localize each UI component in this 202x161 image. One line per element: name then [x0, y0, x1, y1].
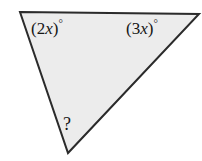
triangle-figure: (2x)° (3x)° ? — [0, 0, 202, 161]
right-degree-symbol: ° — [153, 17, 157, 29]
right-variable: x — [140, 19, 148, 38]
left-degree-symbol: ° — [58, 17, 62, 29]
left-coefficient: 2 — [37, 19, 46, 38]
angle-label-unknown: ? — [63, 115, 71, 133]
angle-label-right: (3x)° — [126, 20, 158, 37]
left-variable: x — [45, 19, 53, 38]
right-coefficient: 3 — [132, 19, 141, 38]
angle-label-left: (2x)° — [31, 20, 63, 37]
